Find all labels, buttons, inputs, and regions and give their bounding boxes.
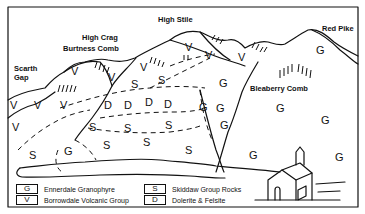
rock-symbol-v: V (185, 42, 192, 53)
rock-symbol-g: G (64, 146, 73, 157)
rock-symbol-s: S (165, 120, 172, 131)
legend-item-granophyre: G Ennerdale Granophyre (16, 184, 115, 194)
legend-key-d: D (144, 195, 166, 205)
legend-item-volcanic: V Borrowdale Volcanic Group (16, 195, 129, 205)
rock-symbol-s: S (158, 75, 165, 86)
label-scarth-gap-line2: Gap (14, 74, 29, 82)
rock-symbol-g: G (220, 120, 229, 131)
rock-symbol-g: G (216, 103, 225, 114)
rock-symbol-s: S (124, 123, 131, 134)
label-high-stile: High Stile (158, 16, 193, 24)
rock-symbol-s: S (29, 150, 36, 161)
rock-symbol-d: D (104, 100, 112, 111)
label-red-pike: Red Pike (322, 25, 354, 33)
label-burtness-comb: Burtness Comb (63, 45, 119, 53)
rock-symbol-s: S (103, 140, 110, 151)
geology-diagram: Scarth Gap High Crag Burtness Comb High … (0, 0, 365, 214)
rock-symbol-g: G (316, 45, 325, 56)
rock-symbol-d: D (164, 99, 172, 110)
rock-symbol-v: V (60, 100, 67, 111)
rock-symbol-v: V (108, 72, 115, 83)
rock-symbol-s: S (131, 79, 138, 90)
legend-key-v: V (16, 195, 38, 205)
legend-label: Skiddaw Group Rocks (172, 186, 241, 193)
rock-symbol-g: G (199, 102, 208, 113)
rock-symbol-g: G (249, 150, 258, 161)
rock-symbol-v: V (140, 62, 147, 73)
rock-symbol-v: V (205, 50, 212, 61)
rock-symbol-v: V (34, 100, 41, 111)
rock-symbol-g: G (219, 78, 228, 89)
rock-symbol-v: V (10, 100, 17, 111)
rock-symbol-v: V (12, 122, 19, 133)
rock-symbol-v: V (71, 66, 78, 77)
diagram-lines (0, 0, 365, 214)
legend-label: Borrowdale Volcanic Group (44, 197, 129, 204)
legend-item-dolerite: D Dolerite & Felsite (144, 195, 225, 205)
rock-symbol-g: G (276, 103, 285, 114)
rock-symbol-v: V (238, 52, 245, 63)
rock-symbol-g: G (321, 115, 330, 126)
rock-symbol-s: S (143, 137, 150, 148)
legend-item-skiddaw: S Skiddaw Group Rocks (144, 184, 241, 194)
rock-symbol-s: S (89, 122, 96, 133)
rock-symbol-s: S (185, 145, 192, 156)
rock-symbol-d: D (145, 97, 153, 108)
legend-key-s: S (144, 184, 166, 194)
label-scarth-gap-line1: Scarth (14, 65, 37, 73)
label-bleaberry-comb: Bleaberry Comb (250, 85, 308, 93)
rock-symbol-g: G (335, 152, 344, 163)
legend-label: Ennerdale Granophyre (44, 186, 115, 193)
legend-label: Dolerite & Felsite (172, 197, 225, 204)
rock-symbol-d: D (124, 100, 132, 111)
legend-key-g: G (16, 184, 38, 194)
label-high-crag: High Crag (82, 34, 118, 42)
